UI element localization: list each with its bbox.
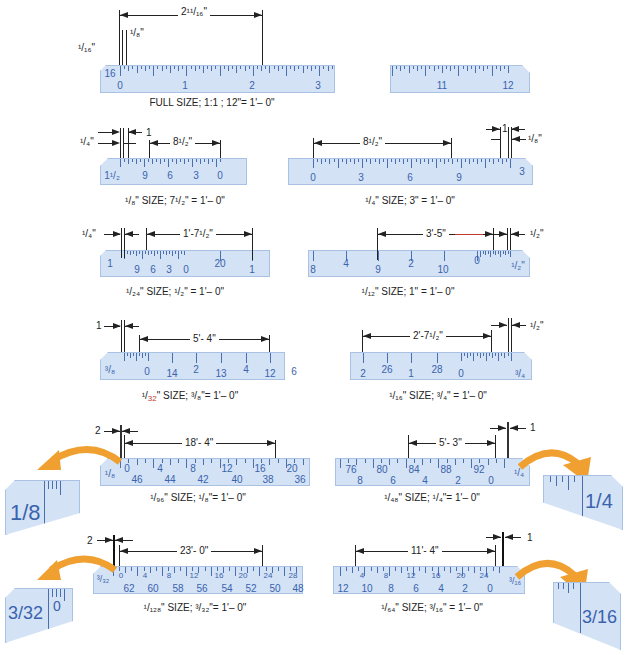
scale-number: 11 — [437, 80, 447, 91]
scale-number: 4 — [438, 583, 444, 594]
end-label: 3 — [519, 166, 525, 177]
dimension-label: 18'- 4" — [182, 437, 216, 448]
scale-caption: ¹/₁₆" SIZE; ³/₄" = 1'– 0" — [389, 390, 487, 401]
scale-number: 88 — [440, 464, 451, 475]
scale-number: 56 — [196, 583, 207, 594]
dimension-label: 1 — [96, 320, 102, 331]
eighth-size-ruler — [100, 158, 247, 185]
scale-number: 52 — [245, 583, 256, 594]
scale-caption: ¹/₉₆" SIZE; ¹/₈"= 1'– 0" — [150, 492, 246, 503]
dimension-label: 8¹/₂" — [360, 136, 385, 147]
scale-number: 6 — [390, 475, 396, 486]
zoom-label: 1/8 — [10, 500, 41, 526]
dimension-label: 2 — [87, 535, 93, 546]
scale-number: 60 — [147, 583, 158, 594]
scale-number: 54 — [221, 583, 232, 594]
scale-number: 9 — [456, 172, 462, 183]
scale-number: 0 — [124, 463, 130, 474]
dimension-label: ¹/₈" — [130, 27, 144, 38]
end-label: ³/₄ — [515, 368, 525, 379]
scale-number: 40 — [231, 474, 242, 485]
dimension-label: 1 — [146, 127, 152, 138]
scale-number: 0 — [487, 583, 493, 594]
scale-number: 16 — [254, 463, 265, 474]
dimension-label: ¹/₈" — [528, 133, 542, 144]
scale-number: 2 — [408, 258, 414, 269]
curved-arrow-icon — [35, 550, 120, 585]
scale-number: 24 — [264, 571, 273, 580]
scale-number: 0 — [144, 366, 150, 377]
end-label: ³/₈ — [105, 364, 115, 375]
scale-number: 8 — [190, 463, 196, 474]
scale-number: 38 — [262, 474, 273, 485]
scale-number: 28 — [289, 571, 298, 580]
scale-caption: ¹/32" SIZE; ³/₈"= 1'– 0" — [142, 390, 238, 403]
scale-number: 3 — [315, 80, 321, 91]
dimension-label: ¹/₂" — [530, 320, 544, 331]
scale-number: 12 — [337, 583, 348, 594]
scale-caption: FULL SIZE; 1:1 ; 12"= 1'– 0" — [149, 97, 274, 108]
scale-number: 16 — [432, 571, 441, 580]
scale-number: 1 — [249, 264, 255, 275]
scale-number: 4 — [343, 258, 349, 269]
zoom-zero-label: 0 — [53, 598, 61, 614]
end-label: 1 — [107, 258, 113, 269]
scale-number: 12 — [502, 80, 513, 91]
scale-number: 6 — [167, 170, 173, 181]
scale-number: 0 — [117, 80, 123, 91]
scale-number: 20 — [286, 463, 297, 474]
scale-number: 20 — [239, 571, 248, 580]
scale-number: 0 — [310, 172, 316, 183]
scale-number: 44 — [164, 474, 175, 485]
scale-caption: ¹/₈" SIZE; 7¹/₂" = 1'– 0" — [125, 195, 225, 206]
twelfth-size-ruler — [308, 250, 530, 277]
scale-number: 0 — [183, 264, 189, 275]
dimension-label: 8¹/₂" — [170, 136, 195, 147]
dimension-label: ¹/₄" — [80, 136, 94, 147]
scale-number: 12 — [407, 571, 416, 580]
dimension-label: 2'-7¹/₂" — [410, 330, 446, 341]
scale-number: 2 — [462, 583, 468, 594]
scale-number: 2 — [249, 80, 255, 91]
scale-number: 50 — [269, 583, 280, 594]
scale-number: 10 — [361, 583, 372, 594]
scale-number: 84 — [408, 464, 419, 475]
dimension-label: 11'- 4" — [408, 545, 442, 556]
scale-number: 12 — [264, 368, 275, 379]
scale-number: 8 — [388, 583, 394, 594]
scale-number: 28 — [431, 364, 442, 375]
dimension-label: 2 — [95, 425, 101, 436]
scale-number: 12 — [190, 571, 199, 580]
scale-number: 6 — [407, 172, 413, 183]
scale-number: 14 — [166, 368, 177, 379]
scale-number: 2 — [455, 475, 461, 486]
scale-number: 0 — [458, 368, 464, 379]
dimension-label: 5'- 3" — [436, 437, 465, 448]
scale-number: 20 — [214, 258, 225, 269]
scale-number: 2 — [360, 368, 366, 379]
scale-number: 80 — [376, 464, 387, 475]
scale-number: 6 — [413, 583, 419, 594]
scale-number: 8 — [310, 264, 316, 275]
scale-caption: ¹/₁₂" SIZE; 1" = 1'– 0" — [362, 286, 455, 297]
scale-caption: ¹/₁₂₈" SIZE; ³/₃₂"= 1'– 0" — [144, 602, 247, 613]
scale-caption: ¹/₄₈" SIZE; ¹/₄"= 1'– 0" — [384, 492, 480, 503]
scale-caption: ¹/₄" SIZE; 3" = 1'– 0" — [365, 195, 455, 206]
scale-number: 4 — [157, 463, 163, 474]
dimension-label: ¹/₁₆" — [78, 42, 95, 53]
scale-number: 20 — [457, 571, 466, 580]
dimension-label: 2¹¹/₁₆" — [178, 6, 210, 17]
scale-number: 26 — [381, 364, 392, 375]
dimension-label: 23'- 0" — [177, 545, 211, 556]
scale-number: 4 — [360, 571, 364, 580]
scale-number: 6 — [291, 366, 297, 377]
scale-number: 4 — [422, 475, 428, 486]
end-label: ¹/₂" — [511, 260, 525, 271]
dimension-label: 1 — [502, 123, 508, 134]
scale-number: 8 — [384, 571, 388, 580]
dimension-label: ¹/₂" — [530, 228, 544, 239]
full-size-end-label: 16 — [104, 68, 115, 79]
dimension-label: 3'-5" — [423, 228, 449, 239]
curved-arrow-icon — [35, 440, 125, 475]
dimension-label: 5'- 4" — [190, 333, 219, 344]
